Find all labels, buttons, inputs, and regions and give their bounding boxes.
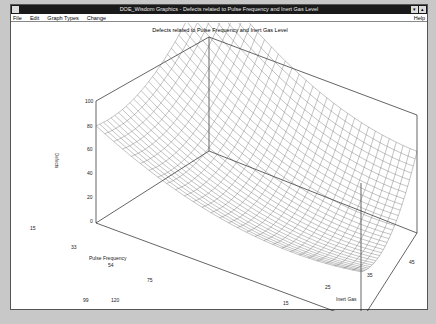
menu-file[interactable]: File	[13, 14, 22, 21]
menu-graph-types[interactable]: Graph Types	[47, 14, 78, 21]
menu-edit[interactable]: Edit	[30, 14, 39, 21]
title-bar: DOE_Wisdom Graphics - Defects related to…	[11, 5, 427, 14]
svg-text:120: 120	[111, 297, 120, 303]
menu-bar: File Edit Graph Types Change Help	[11, 14, 427, 22]
x-axis-title: Pulse Frequency	[89, 255, 127, 261]
svg-text:20: 20	[87, 194, 93, 200]
minimize-button[interactable]: ▾	[411, 6, 418, 13]
svg-text:40: 40	[87, 170, 93, 176]
chart-title: Defects related to Pulse Frequency and I…	[152, 27, 287, 33]
svg-text:99: 99	[83, 297, 89, 303]
surface-plot: Defects related to Pulse Frequency and I…	[11, 23, 427, 311]
surface-mesh	[96, 23, 417, 272]
svg-text:54: 54	[108, 262, 114, 268]
svg-text:33: 33	[71, 244, 77, 250]
svg-text:100: 100	[85, 98, 94, 104]
graph-window: DOE_Wisdom Graphics - Defects related to…	[10, 4, 428, 310]
svg-text:15: 15	[30, 225, 36, 231]
z-axis-labels: 100 80 60 40 20 0 Defects	[54, 98, 94, 224]
svg-text:0: 0	[90, 218, 93, 224]
svg-text:75: 75	[147, 277, 153, 283]
surface-chart: Defects related to Pulse Frequency and I…	[11, 23, 429, 311]
system-menu-icon[interactable]	[12, 6, 19, 13]
svg-text:45: 45	[409, 259, 415, 265]
menu-change[interactable]: Change	[87, 14, 106, 21]
axes-box	[96, 37, 417, 311]
svg-text:15: 15	[283, 300, 289, 306]
window-title: DOE_Wisdom Graphics - Defects related to…	[120, 6, 319, 12]
y-axis-title: Inert Gas	[336, 296, 357, 302]
z-axis-title: Defects	[54, 153, 59, 169]
menu-help[interactable]: Help	[414, 14, 425, 22]
maximize-button[interactable]: ▴	[419, 6, 426, 13]
svg-text:25: 25	[325, 284, 331, 290]
svg-text:60: 60	[87, 146, 93, 152]
svg-text:80: 80	[87, 123, 93, 129]
x-axis-labels: 15 33 54 75 99 120 Pulse Frequency	[30, 225, 153, 303]
svg-text:35: 35	[367, 272, 373, 278]
